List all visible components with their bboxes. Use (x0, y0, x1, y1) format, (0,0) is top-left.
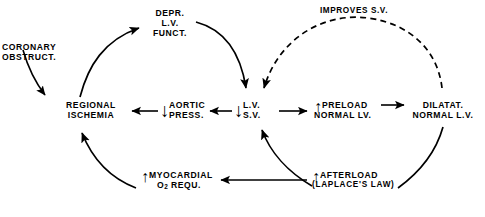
preload-up-arrow-icon: ↑ (314, 99, 323, 115)
myocardial-o2-line1: MYOCARDIAL (149, 170, 213, 180)
myocardial-o2-up-arrow-icon: ↑ (141, 169, 150, 185)
node-myocardial-o2-requirement: ↑ MYOCARDIAL O2 REQU. (141, 170, 213, 192)
myocardial-o2-line2: O2 REQU. (157, 180, 213, 192)
node-dilatat: DILATAT. NORMAL L.V. (405, 100, 481, 120)
aortic-press-line2: PRESS. (169, 110, 205, 120)
afterload-line1: AFTERLOAD (320, 170, 395, 180)
node-coronary-obstruct: CORONARY OBSTRUCT. (2, 42, 56, 62)
aortic-press-down-arrow-icon: ↓ (160, 101, 170, 120)
node-regional-ischemia: REGIONAL ISCHEMIA (50, 100, 132, 120)
edge-dilatat-to-lv-sv-improves-sv (264, 17, 442, 88)
node-preload: ↑ PRELOAD NORMAL LV. (314, 100, 371, 120)
regional-ischemia-line1: REGIONAL (50, 100, 132, 110)
edge-regional-ischemia-to-depr-lv-funct (80, 28, 139, 97)
edge-afterload-to-lv-sv (262, 130, 312, 186)
edge-dilatat-to-afterload (398, 127, 443, 188)
node-lv-sv: ↓ L.V. S.V. (234, 100, 261, 120)
dilatat-line1: DILATAT. (405, 100, 481, 110)
lv-sv-line1: L.V. (243, 100, 261, 110)
edge-depr-lv-funct-to-lv-sv (196, 22, 246, 88)
depr-lv-funct-line1: DEPR. (141, 8, 199, 18)
afterload-laplace-law: (LAPLACE'S LAW) (312, 180, 395, 190)
lv-sv-down-arrow-icon: ↓ (234, 101, 244, 120)
myocardial-o2-requ: REQU. (168, 180, 201, 190)
lv-sv-line2: S.V. (243, 110, 261, 120)
depr-lv-funct-line3: FUNCT. (141, 28, 199, 38)
preload-line2: NORMAL LV. (314, 110, 371, 120)
improves-sv-line2: S.V. (371, 6, 388, 15)
edge-label-improves-sv: IMPROVES S.V. (310, 6, 398, 17)
improves-sv-line1: IMPROVES (320, 6, 368, 15)
preload-line1: PRELOAD (322, 100, 371, 110)
depr-lv-funct-line2: L.V. (141, 18, 199, 28)
regional-ischemia-line2: ISCHEMIA (50, 110, 132, 120)
node-aortic-press: ↓ AORTIC PRESS. (160, 100, 205, 120)
coronary-obstruct-line2: OBSTRUCT. (2, 52, 56, 62)
node-depr-lv-funct: DEPR. L.V. FUNCT. (141, 8, 199, 39)
node-afterload: ↑ AFTERLOAD (LAPLACE'S LAW) (312, 170, 395, 190)
figure-canvas: CORONARY OBSTRUCT. DEPR. L.V. FUNCT. REG… (0, 0, 485, 217)
afterload-up-arrow-icon: ↑ (312, 169, 321, 185)
coronary-obstruct-line1: CORONARY (2, 42, 56, 52)
edge-myocardial-o2-to-regional-ischemia (82, 133, 136, 188)
aortic-press-line1: AORTIC (169, 100, 205, 110)
dilatat-line2: NORMAL L.V. (405, 110, 481, 120)
